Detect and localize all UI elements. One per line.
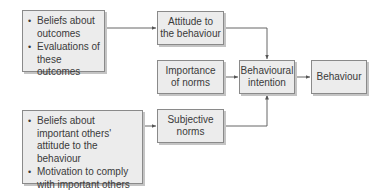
edge-attitude-to-intention <box>224 28 267 59</box>
bullet-beliefs-about-important-others: Beliefs about important others' attitude… <box>27 115 138 165</box>
attitude-line2: the behaviour <box>160 28 221 40</box>
intention-line2: intention <box>241 77 294 89</box>
node-behavioural-intention: Behavioural intention <box>239 60 295 94</box>
attitude-line1: Attitude to <box>160 16 221 28</box>
subjective-line1: Subjective <box>167 114 213 126</box>
node-subjective-norms: Subjective norms <box>157 109 224 143</box>
intention-line1: Behavioural <box>241 65 294 77</box>
bullet-motivation-to-comply: Motivation to comply with important othe… <box>27 166 138 191</box>
behaviour-label: Behaviour <box>316 71 361 83</box>
node-attitude: Attitude to the behaviour <box>157 11 224 45</box>
subjective-line2: norms <box>167 126 213 138</box>
importance-line1: Importance <box>165 65 215 77</box>
importance-line2: of norms <box>165 77 215 89</box>
bullet-evaluations-of-outcomes: Evaluations of these outcomes <box>27 41 100 79</box>
bullet-beliefs-about-outcomes: Beliefs about outcomes <box>27 15 100 40</box>
node-beliefs-about-others: Beliefs about important others' attitude… <box>22 110 143 184</box>
node-importance-of-norms: Importance of norms <box>157 60 224 94</box>
edge-subjective-to-intention <box>224 95 267 126</box>
node-behaviour: Behaviour <box>311 60 367 94</box>
node-beliefs-about-outcomes: Beliefs about outcomes Evaluations of th… <box>22 10 105 72</box>
